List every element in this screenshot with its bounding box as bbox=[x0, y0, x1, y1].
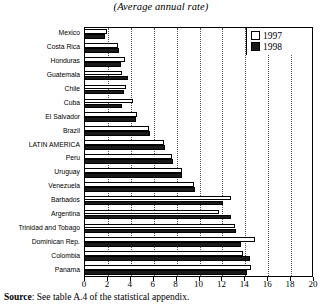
bar-1997-barbados bbox=[84, 196, 231, 201]
legend-entry-1997: 1997 bbox=[251, 30, 309, 41]
chart-row: Panama bbox=[84, 263, 313, 277]
category-label-latin-america: LATIN AMERICA bbox=[29, 142, 80, 149]
bar-1997-mexico bbox=[84, 29, 107, 34]
x-tick-label-10: 10 bbox=[194, 279, 203, 290]
bar-1998-colombia bbox=[84, 256, 250, 261]
category-label-honduras: Honduras bbox=[51, 58, 80, 65]
bar-1997-panama bbox=[84, 265, 251, 270]
category-label-costa-rica: Costa Rica bbox=[47, 44, 80, 51]
bar-1997-dominican-rep bbox=[84, 237, 255, 242]
category-label-guatemala: Guatemala bbox=[47, 72, 80, 79]
bar-1997-honduras bbox=[84, 57, 125, 62]
category-label-peru: Peru bbox=[66, 155, 80, 162]
bar-1997-guatemala bbox=[84, 71, 122, 76]
x-tick-label-2: 2 bbox=[105, 279, 110, 290]
bar-1997-trinidad-and-tobago bbox=[84, 224, 235, 229]
bar-1997-colombia bbox=[84, 251, 243, 256]
x-tick-label-0: 0 bbox=[82, 279, 87, 290]
bar-1998-uruguay bbox=[84, 173, 182, 178]
bar-1998-el-salvador bbox=[84, 117, 136, 122]
bar-1998-venezuela bbox=[84, 187, 195, 192]
category-label-el-salvador: El Salvador bbox=[45, 114, 80, 121]
bar-1997-peru bbox=[84, 154, 172, 159]
bar-1998-mexico bbox=[84, 34, 105, 39]
bar-1997-argentina bbox=[84, 210, 219, 215]
x-tick-label-4: 4 bbox=[128, 279, 133, 290]
x-axis-labels: 02468101214161820 bbox=[0, 279, 322, 291]
category-label-chile: Chile bbox=[65, 86, 81, 93]
source-text: : See table A.4 of the statistical appen… bbox=[32, 292, 190, 302]
legend-swatch-1997 bbox=[251, 31, 260, 40]
chart-row: Peru bbox=[84, 152, 313, 166]
chart-row: El Salvador bbox=[84, 110, 313, 124]
category-label-trinidad-and-tobago: Trinidad and Tobago bbox=[18, 225, 80, 232]
category-label-cuba: Cuba bbox=[64, 100, 80, 107]
x-tick-label-6: 6 bbox=[150, 279, 155, 290]
bar-1997-venezuela bbox=[84, 182, 194, 187]
chart-row: Cuba bbox=[84, 96, 313, 110]
bar-1997-costa-rica bbox=[84, 43, 118, 48]
bar-1998-honduras bbox=[84, 62, 121, 67]
chart-row: Guatemala bbox=[84, 69, 313, 83]
bar-1998-argentina bbox=[84, 215, 231, 220]
legend-swatch-1998 bbox=[251, 42, 260, 51]
chart-row: Barbados bbox=[84, 194, 313, 208]
chart-row: Venezuela bbox=[84, 180, 313, 194]
category-label-brazil: Brazil bbox=[63, 128, 80, 135]
bar-1998-brazil bbox=[84, 131, 150, 136]
bar-1997-el-salvador bbox=[84, 112, 137, 117]
bar-1998-cuba bbox=[84, 104, 122, 109]
chart-row: LATIN AMERICA bbox=[84, 138, 313, 152]
bar-1998-peru bbox=[84, 159, 173, 164]
chart-row: Uruguay bbox=[84, 166, 313, 180]
category-label-argentina: Argentina bbox=[51, 211, 80, 218]
bar-1998-latin-america bbox=[84, 145, 165, 150]
chart-row: Argentina bbox=[84, 208, 313, 222]
source-label: Source bbox=[4, 292, 32, 302]
category-label-barbados: Barbados bbox=[51, 197, 80, 204]
x-tick-label-8: 8 bbox=[173, 279, 178, 290]
figure-container: (Average annual rate) MexicoCosta RicaHo… bbox=[0, 0, 322, 307]
chart-row: Colombia bbox=[84, 249, 313, 263]
chart-legend: 19971998 bbox=[246, 28, 312, 55]
chart-row: Chile bbox=[84, 83, 313, 97]
category-label-colombia: Colombia bbox=[51, 253, 80, 260]
legend-label-1997: 1997 bbox=[263, 31, 282, 41]
bar-1997-cuba bbox=[84, 99, 133, 104]
bar-1998-costa-rica bbox=[84, 48, 119, 53]
bar-1998-barbados bbox=[84, 201, 223, 206]
bars-layer: MexicoCosta RicaHondurasGuatemalaChileCu… bbox=[84, 27, 313, 277]
chart-title: (Average annual rate) bbox=[0, 1, 322, 12]
bar-1998-trinidad-and-tobago bbox=[84, 229, 236, 234]
chart-row: Trinidad and Tobago bbox=[84, 221, 313, 235]
category-label-uruguay: Uruguay bbox=[54, 169, 80, 176]
bar-1998-dominican-rep bbox=[84, 242, 241, 247]
x-tick-label-14: 14 bbox=[240, 279, 249, 290]
bar-1998-guatemala bbox=[84, 76, 128, 81]
bar-1998-panama bbox=[84, 270, 247, 275]
bar-1998-chile bbox=[84, 90, 124, 95]
x-tick-label-20: 20 bbox=[309, 279, 318, 290]
bar-1997-brazil bbox=[84, 126, 149, 131]
chart-row: Honduras bbox=[84, 55, 313, 69]
bar-1997-uruguay bbox=[84, 168, 182, 173]
category-label-dominican-rep: Dominican Rep. bbox=[32, 239, 80, 246]
chart-row: Dominican Rep. bbox=[84, 235, 313, 249]
category-label-panama: Panama bbox=[55, 267, 80, 274]
source-note: Source: See table A.4 of the statistical… bbox=[4, 292, 189, 302]
x-tick-label-12: 12 bbox=[217, 279, 226, 290]
legend-entry-1998: 1998 bbox=[251, 41, 309, 52]
x-tick-label-16: 16 bbox=[263, 279, 272, 290]
legend-label-1998: 1998 bbox=[263, 42, 282, 52]
x-tick-label-18: 18 bbox=[286, 279, 295, 290]
bar-1997-chile bbox=[84, 85, 126, 90]
bar-1997-latin-america bbox=[84, 140, 164, 145]
chart-row: Brazil bbox=[84, 124, 313, 138]
category-label-venezuela: Venezuela bbox=[48, 183, 80, 190]
category-label-mexico: Mexico bbox=[58, 30, 80, 37]
